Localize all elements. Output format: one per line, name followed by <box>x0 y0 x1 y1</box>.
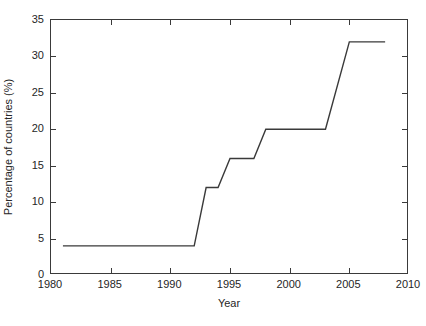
y-tick-label: 15 <box>0 158 44 171</box>
x-tick-mark <box>349 268 350 273</box>
x-tick-label: 1980 <box>38 278 62 291</box>
y-tick-mark <box>51 202 56 203</box>
x-tick-mark-top <box>230 20 231 25</box>
x-tick-label: 1985 <box>97 278 121 291</box>
y-tick-mark <box>51 239 56 240</box>
y-tick-mark <box>51 129 56 130</box>
y-tick-mark-right <box>402 166 407 167</box>
y-tick-mark-right <box>402 56 407 57</box>
y-tick-mark <box>51 166 56 167</box>
x-tick-mark <box>111 268 112 273</box>
x-tick-mark-top <box>349 20 350 25</box>
y-tick-label: 20 <box>0 122 44 135</box>
y-tick-mark-right <box>402 93 407 94</box>
x-tick-mark <box>290 268 291 273</box>
x-axis-title: Year <box>50 297 408 309</box>
x-tick-mark-top <box>111 20 112 25</box>
y-tick-label: 5 <box>0 231 44 244</box>
data-series-layer <box>51 20 409 275</box>
y-tick-mark <box>51 56 56 57</box>
y-tick-label: 10 <box>0 195 44 208</box>
y-tick-mark-right <box>402 129 407 130</box>
x-tick-label: 2005 <box>336 278 360 291</box>
y-tick-mark <box>51 93 56 94</box>
line-series-percentage-of-countries <box>63 42 385 246</box>
y-tick-label: 25 <box>0 85 44 98</box>
x-tick-label: 1995 <box>217 278 241 291</box>
chart-figure: Percentage of countries (%) 051015202530… <box>0 0 426 326</box>
x-tick-mark <box>230 268 231 273</box>
plot-area <box>50 19 408 274</box>
x-tick-label: 2010 <box>396 278 420 291</box>
x-tick-label: 1990 <box>157 278 181 291</box>
y-tick-mark-right <box>402 202 407 203</box>
y-tick-label: 30 <box>0 49 44 62</box>
y-tick-mark-right <box>402 239 407 240</box>
y-tick-label: 35 <box>0 13 44 26</box>
x-tick-label: 2000 <box>276 278 300 291</box>
x-tick-mark-top <box>170 20 171 25</box>
x-tick-mark-top <box>290 20 291 25</box>
x-tick-mark <box>170 268 171 273</box>
